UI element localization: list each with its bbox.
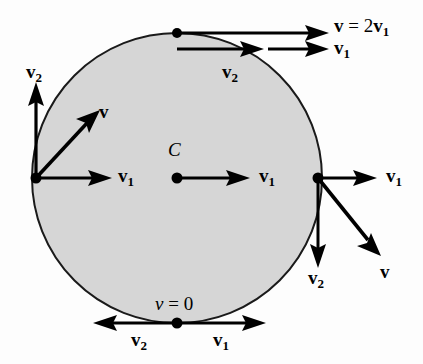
label-sub: 1 <box>223 338 230 353</box>
label-right-component-v1: v1 <box>386 166 402 185</box>
label-top-eq: = 2 <box>344 15 374 36</box>
label-center-v1: v1 <box>259 166 275 185</box>
label-top-v1-glyph: v <box>373 15 383 36</box>
label-top-v1-sub: 1 <box>383 24 390 39</box>
top-point-marker <box>172 28 182 38</box>
label-glyph: v <box>26 61 36 82</box>
label-sub: 2 <box>318 276 325 291</box>
label-glyph: v <box>334 37 344 58</box>
label-sub: 2 <box>141 338 148 353</box>
label-sub: 2 <box>232 70 239 85</box>
label-top-resultant-v: v = 2v1 <box>334 16 389 35</box>
label-right-resultant-v: v <box>380 262 390 281</box>
label-glyph: v <box>386 165 396 186</box>
vector-right-component-v1 <box>318 170 377 186</box>
label-glyph: v <box>131 329 141 350</box>
label-right-component-v2: v2 <box>308 268 324 287</box>
vector-top-component-v1 <box>268 41 329 57</box>
label-left-component-v1: v1 <box>118 166 134 185</box>
center-point-marker <box>172 173 183 184</box>
label-glyph: v <box>380 261 390 282</box>
rolling-circle-diagram: v = 2v1 v1 v2 v2 v v1 C v1 v1 v2 v v = 0… <box>0 0 423 364</box>
label-glyph: v <box>213 329 223 350</box>
vector-right-resultant-v <box>318 178 381 256</box>
label-left-resultant-v: v <box>99 102 109 121</box>
label-top-v-glyph: v <box>334 15 344 36</box>
label-sub: 1 <box>128 174 135 189</box>
label-bottom-component-v2: v2 <box>131 330 147 349</box>
label-sub: 1 <box>344 46 351 61</box>
diagram-canvas <box>0 0 423 364</box>
label-glyph: v <box>222 61 232 82</box>
label-bottom-component-v1: v1 <box>213 330 229 349</box>
left-point-marker <box>31 173 42 184</box>
label-sub: 2 <box>36 70 43 85</box>
label-eq: = 0 <box>163 293 193 314</box>
bottom-point-marker <box>172 318 183 329</box>
label-center-point-c: C <box>168 140 181 159</box>
label-glyph: v <box>118 165 128 186</box>
right-point-marker <box>313 173 324 184</box>
label-top-component-v1: v1 <box>334 38 350 57</box>
label-sub: 1 <box>396 174 403 189</box>
label-sub: 1 <box>269 174 276 189</box>
label-top-component-v2: v2 <box>222 62 238 81</box>
label-bottom-v-zero: v = 0 <box>155 294 193 313</box>
label-glyph: v <box>308 267 318 288</box>
label-glyph: v <box>99 101 109 122</box>
label-glyph: C <box>168 139 181 160</box>
label-glyph: v <box>259 165 269 186</box>
label-left-component-v2: v2 <box>26 62 42 81</box>
